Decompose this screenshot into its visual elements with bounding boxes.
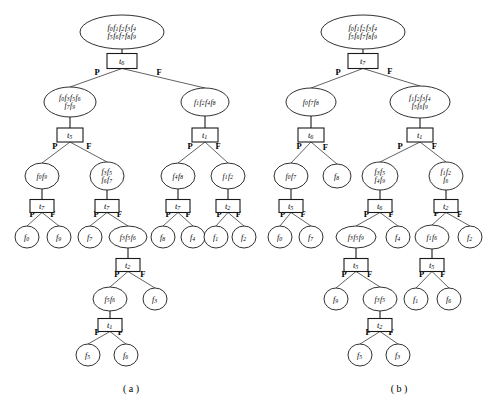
- class-node[interactable]: f1 f6: [415, 225, 449, 249]
- branch-label-f: F: [387, 66, 392, 76]
- test-node[interactable]: t7: [348, 54, 378, 69]
- class-node[interactable]: f1 f2 f3 f4 f5 f6 f9: [390, 86, 450, 118]
- test-node[interactable]: t2: [434, 200, 458, 213]
- class-node[interactable]: f0: [268, 226, 292, 248]
- branch-label-f: F: [216, 141, 221, 151]
- branch-label-p: P: [95, 67, 100, 77]
- caption-b: ( b ): [391, 383, 408, 395]
- branch-label-f: F: [157, 67, 162, 77]
- class-node[interactable]: f0 f7 f8: [286, 88, 336, 116]
- class-node[interactable]: f1 f2: [211, 163, 245, 189]
- class-node[interactable]: f3: [386, 344, 410, 366]
- class-node[interactable]: f3 f5 f6: [109, 226, 147, 248]
- figure-canvas: PFPFPFPFPFPFPFPFPFf0 f1 f2 f3 f4 f5 f6 f…: [0, 0, 494, 406]
- test-node[interactable]: t5: [344, 259, 368, 272]
- test-node[interactable]: t1: [98, 319, 122, 332]
- class-node[interactable]: f1 f2 f6: [429, 162, 463, 190]
- caption-a: ( a ): [123, 383, 139, 395]
- class-node[interactable]: f0 f3 f5 f6 f7 f9: [44, 87, 96, 117]
- class-node[interactable]: f0 f9: [25, 163, 59, 189]
- branch-label-f: F: [140, 269, 145, 279]
- class-node[interactable]: f5: [348, 344, 372, 366]
- class-node[interactable]: f2: [458, 226, 482, 248]
- class-node[interactable]: f6: [437, 288, 461, 310]
- test-node[interactable]: t2: [116, 259, 140, 272]
- class-node[interactable]: f3: [143, 288, 167, 310]
- test-node[interactable]: t6: [298, 128, 324, 142]
- test-node[interactable]: t7: [95, 200, 119, 213]
- class-node[interactable]: f0: [15, 226, 39, 248]
- test-node[interactable]: t1: [192, 128, 218, 142]
- panel-b: PFPFPFPFPFPFPFPFPFf0 f1 f2 f3 f4 f5 f6 f…: [268, 15, 482, 366]
- test-node[interactable]: t2: [368, 319, 392, 332]
- test-node[interactable]: t5: [420, 259, 444, 272]
- branch-label-p: P: [336, 67, 341, 77]
- branch-label-p: P: [397, 141, 402, 151]
- tree-edge-f: [122, 69, 205, 89]
- class-node[interactable]: f8: [323, 164, 351, 188]
- test-node[interactable]: t1: [407, 128, 433, 142]
- branch-label-f: F: [86, 141, 91, 151]
- class-node[interactable]: f5: [76, 344, 100, 366]
- node-layer: f0 f1 f2 f3 f4 f5 f6 f7 f8 f9 t6 f0 f3 f…: [15, 15, 256, 366]
- node-layer: f0 f1 f2 f3 f4 f5 f6 f7 f8 f9 t7 f0 f7 f…: [268, 15, 482, 366]
- class-node[interactable]: f4: [386, 226, 410, 248]
- class-node[interactable]: f7: [78, 226, 102, 248]
- branch-label-p: P: [296, 141, 301, 151]
- class-node[interactable]: f8: [151, 226, 175, 248]
- class-node[interactable]: f0 f1 f2 f3 f4 f5 f6 f7 f8 f9: [321, 15, 405, 49]
- test-node[interactable]: t7: [166, 200, 190, 213]
- class-node[interactable]: f1: [404, 288, 428, 310]
- class-node[interactable]: f1: [204, 226, 228, 248]
- class-node[interactable]: f9: [47, 226, 71, 248]
- class-node[interactable]: f5 f6: [93, 287, 127, 311]
- test-node[interactable]: t6: [107, 54, 137, 69]
- branch-label-f: F: [323, 142, 328, 152]
- class-node[interactable]: f2: [232, 226, 256, 248]
- class-node[interactable]: f7: [299, 226, 323, 248]
- class-node[interactable]: f4 f8: [161, 163, 195, 189]
- test-node[interactable]: t2: [216, 200, 240, 213]
- test-node[interactable]: t6: [368, 200, 392, 213]
- test-node[interactable]: t5: [279, 200, 303, 213]
- panel-a: PFPFPFPFPFPFPFPFPFf0 f1 f2 f3 f4 f5 f6 f…: [15, 15, 256, 366]
- class-node[interactable]: f1 f2 f4 f8: [181, 88, 229, 116]
- class-node[interactable]: f3 f5 f9: [336, 226, 376, 248]
- class-node[interactable]: f6: [114, 344, 138, 366]
- test-node[interactable]: t7: [30, 200, 54, 213]
- class-node[interactable]: f0 f1 f2 f3 f4 f5 f6 f7 f8 f9: [80, 15, 164, 49]
- decision-tree-figure: PFPFPFPFPFPFPFPFPFf0 f1 f2 f3 f4 f5 f6 f…: [0, 0, 494, 406]
- class-node[interactable]: f9: [324, 288, 348, 310]
- class-node[interactable]: f0 f7: [274, 163, 308, 189]
- branch-label-p: P: [188, 141, 193, 151]
- branch-label-p: P: [52, 141, 57, 151]
- class-node[interactable]: f3 f5 f6 f7: [90, 162, 124, 190]
- class-node[interactable]: f3 f5 f4 f9: [362, 162, 398, 190]
- class-node[interactable]: f3 f5: [363, 287, 397, 311]
- test-node[interactable]: t5: [57, 128, 83, 142]
- class-node[interactable]: f4: [181, 226, 205, 248]
